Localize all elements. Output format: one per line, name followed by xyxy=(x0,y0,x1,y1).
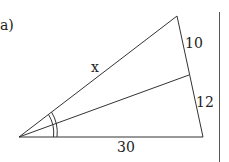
part-label: a) xyxy=(0,17,14,33)
triangle xyxy=(19,16,203,137)
angle-bisector xyxy=(19,75,189,137)
label-10: 10 xyxy=(185,35,203,51)
label-x: x xyxy=(91,59,99,75)
label-30: 30 xyxy=(117,139,135,155)
label-12: 12 xyxy=(196,94,214,110)
triangle-diagram: a) x 10 12 30 xyxy=(0,0,229,162)
